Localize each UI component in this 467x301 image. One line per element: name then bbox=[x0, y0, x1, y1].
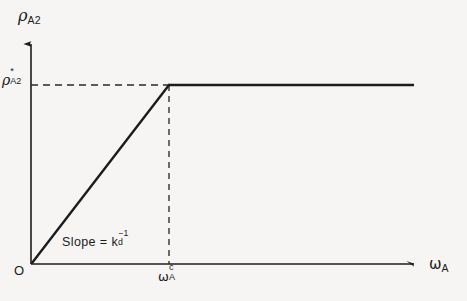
origin-label: O bbox=[14, 264, 24, 277]
plot-canvas bbox=[0, 0, 467, 301]
x-tick-subscript: A bbox=[169, 273, 175, 282]
x-axis-subscript: A bbox=[442, 262, 449, 274]
slope-annotation: Slope = k−1d bbox=[62, 233, 126, 248]
slope-annotation-supsub: −1d bbox=[118, 233, 126, 246]
x-axis-symbol: ω bbox=[429, 255, 442, 273]
x-axis-tick-label: ωcA bbox=[158, 268, 177, 283]
y-tick-supsub: *A2 bbox=[10, 72, 18, 85]
slope-annotation-subscript: d bbox=[118, 238, 123, 247]
y-axis-title: ρA2 bbox=[18, 8, 41, 24]
y-axis-symbol: ρ bbox=[18, 6, 28, 25]
y-tick-subscript: A2 bbox=[10, 77, 21, 86]
x-tick-supsub: cA bbox=[169, 268, 177, 281]
y-axis-tick-label: ρ*A2 bbox=[2, 72, 18, 87]
y-axis-subscript: A2 bbox=[28, 14, 41, 26]
figure-container: ρA2 ρ*A2 ωcA ωA O Slope = k−1d bbox=[0, 0, 467, 301]
x-axis-title: ωA bbox=[429, 256, 449, 272]
x-tick-symbol: ω bbox=[158, 269, 169, 284]
slope-annotation-variable: k bbox=[111, 235, 118, 249]
y-tick-symbol: ρ bbox=[2, 72, 10, 88]
slope-annotation-prefix: Slope = bbox=[62, 235, 111, 249]
